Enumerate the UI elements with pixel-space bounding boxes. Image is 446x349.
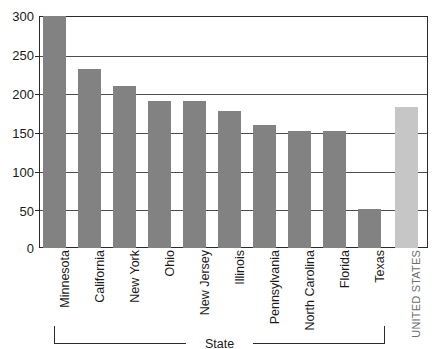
bar-minnesota[interactable] [43, 16, 66, 248]
x-label-california: California [94, 250, 107, 303]
bar-illinois[interactable] [218, 111, 241, 248]
y-tick-label-150: 150 [12, 127, 34, 140]
x-label-minnesota: Minnesota [59, 250, 72, 308]
y-tick-label-0: 0 [27, 242, 34, 255]
y-tick-label-100: 100 [12, 166, 34, 179]
x-label-ohio: Ohio [164, 250, 177, 276]
x-axis-labels: Minnesota California New York Ohio New J… [39, 250, 428, 325]
bar-new-jersey[interactable] [183, 101, 206, 248]
x-label-north-carolina: North Carolina [304, 250, 317, 331]
x-label-texas: Texas [374, 250, 387, 283]
y-tick-label-250: 250 [12, 49, 34, 62]
y-axis: 300 250 200 150 100 50 0 [0, 0, 39, 349]
bar-chart: 300 250 200 150 100 50 0 Minnesota [0, 0, 446, 349]
y-tick-label-50: 50 [20, 205, 34, 218]
y-tick-label-200: 200 [12, 88, 34, 101]
bar-ohio[interactable] [148, 101, 171, 248]
x-label-united-states: UNITED STATES [411, 250, 422, 338]
x-label-new-york: New York [129, 250, 142, 303]
x-axis-title: State [54, 338, 385, 349]
bar-california[interactable] [78, 69, 101, 248]
bar-united-states[interactable] [395, 107, 418, 248]
bars-layer [39, 16, 428, 248]
x-label-illinois: Illinois [234, 250, 247, 285]
bar-pennsylvania[interactable] [253, 125, 276, 248]
x-label-florida: Florida [339, 250, 352, 288]
y-tick-label-300: 300 [12, 10, 34, 23]
x-label-new-jersey: New Jersey [199, 250, 212, 315]
bar-texas[interactable] [358, 209, 381, 248]
group-bracket: State [54, 326, 385, 344]
bar-north-carolina[interactable] [288, 131, 311, 248]
bar-florida[interactable] [323, 131, 346, 248]
bar-new-york[interactable] [113, 86, 136, 248]
x-label-pennsylvania: Pennsylvania [269, 250, 282, 324]
